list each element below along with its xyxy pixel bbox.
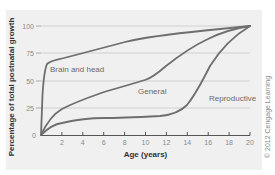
copyright-notice: © 2012 Cengage Learning: [264, 76, 272, 158]
x-tick-12: 12: [163, 139, 171, 146]
x-tick-6: 6: [102, 139, 106, 146]
y-axis-title: Percentage of total postnatal growth: [7, 18, 16, 157]
growth-chart: 100 75 50 25 0 2 4 6 8 10 12 14 16 18 20: [0, 0, 275, 175]
label-reproductive: Reproductive: [209, 94, 257, 103]
x-tick-labels: 2 4 6 8 10 12 14 16 18 20: [60, 139, 254, 146]
y-tick-0: 0: [32, 132, 36, 139]
x-tick-2: 2: [60, 139, 64, 146]
curves: [41, 26, 250, 135]
x-axis-title: Age (years): [124, 150, 168, 159]
curve-general: [41, 26, 250, 135]
y-tick-marks: [36, 26, 41, 108]
y-tick-25: 25: [26, 105, 34, 112]
x-tick-4: 4: [81, 139, 85, 146]
y-tick-75: 75: [26, 50, 34, 57]
x-tick-18: 18: [225, 139, 233, 146]
label-brain-and-head: Brain and head: [50, 65, 104, 74]
y-tick-50: 50: [26, 78, 34, 85]
label-general: General: [138, 87, 167, 96]
x-tick-16: 16: [204, 139, 212, 146]
y-tick-100: 100: [22, 23, 34, 30]
x-tick-20: 20: [246, 139, 254, 146]
x-tick-14: 14: [183, 139, 191, 146]
x-tick-8: 8: [123, 139, 127, 146]
y-tick-labels: 100 75 50 25 0: [22, 23, 36, 139]
x-tick-10: 10: [142, 139, 150, 146]
